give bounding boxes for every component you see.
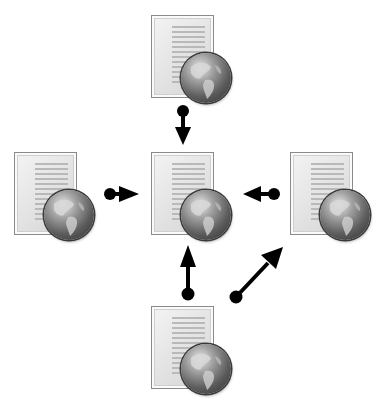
connections-layer — [0, 0, 392, 401]
arrow-right-to-center — [243, 186, 280, 202]
arrow-top-to-center — [175, 105, 191, 145]
arrow-left-to-center — [104, 186, 139, 202]
arrow-bottom-to-right — [230, 247, 284, 304]
arrow-bottom-to-center — [180, 245, 196, 301]
